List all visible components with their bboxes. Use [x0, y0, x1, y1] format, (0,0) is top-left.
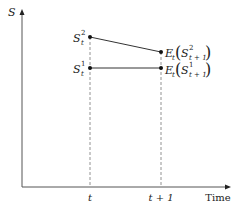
tick-label-t: t	[88, 192, 93, 203]
point-e-1	[159, 66, 163, 70]
point-e-2	[159, 50, 163, 54]
svg-text:t: t	[81, 39, 84, 47]
point-s-t-1	[88, 66, 92, 70]
x-axis-label: Time	[205, 192, 230, 203]
label-e-1: E t ( S 1 t + 1 )	[164, 60, 211, 79]
tick-label-t-plus-1: t + 1	[148, 192, 173, 203]
price-expectation-diagram: S S 2 t S 1 t E t ( S 2 t + 1 ) E t ( S …	[0, 0, 239, 209]
x-axis-arrow-icon	[225, 185, 231, 190]
y-axis-label: S	[8, 6, 16, 19]
label-s-t-1: S 1 t	[73, 60, 85, 78]
svg-text:S: S	[181, 64, 189, 77]
svg-text:2: 2	[189, 44, 193, 52]
svg-text:S: S	[181, 47, 189, 60]
right-paren: )	[205, 60, 211, 79]
line-s2-to-e2	[90, 37, 161, 52]
svg-text:t: t	[81, 70, 84, 78]
svg-text:t + 1: t + 1	[189, 71, 207, 79]
svg-text:1: 1	[189, 61, 193, 69]
point-s-t-2	[88, 35, 92, 39]
svg-text:1: 1	[81, 60, 85, 68]
label-s-t-2: S 2 t	[73, 29, 85, 47]
y-axis-arrow-icon	[20, 9, 25, 15]
svg-text:S: S	[73, 32, 81, 45]
svg-text:2: 2	[81, 29, 85, 37]
svg-text:S: S	[73, 63, 81, 76]
